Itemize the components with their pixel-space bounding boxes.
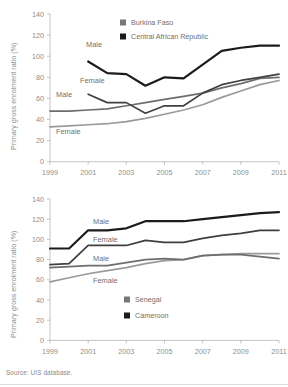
x-tick-label: 1999 <box>42 347 58 356</box>
top-y-axis-title: Primary gross enrolment ratio (%) <box>9 43 18 150</box>
bottom-y-axis-title: Primary gross enrolment ratio (%) <box>9 231 18 338</box>
inline-label-car-female: Female <box>80 76 105 85</box>
x-tick-label: 2001 <box>80 347 96 356</box>
top-series-group <box>50 46 279 127</box>
y-tick-marks <box>47 199 50 340</box>
x-tick-label: 2003 <box>118 168 134 177</box>
legend-swatch-burkina-faso <box>120 20 126 26</box>
inline-label-cameroon-male: Male <box>93 217 109 226</box>
top-chart-svg: Primary gross enrolment ratio (%) 140 12… <box>0 0 288 188</box>
inline-label-burkina-female: Female <box>56 127 81 136</box>
y-tick-label: 20 <box>36 316 44 325</box>
inline-label-senegal-male: Male <box>93 254 109 263</box>
legend-swatch-cameroon <box>124 313 130 319</box>
y-tick-label: 40 <box>36 115 44 124</box>
series-line-burkina-faso-female <box>50 80 279 126</box>
top-legend: Burkina Faso Central African Republic <box>120 18 209 41</box>
x-tick-label: 2007 <box>195 168 211 177</box>
x-tick-label: 2011 <box>271 347 286 356</box>
y-tick-label: 0 <box>40 336 44 345</box>
y-tick-label: 140 <box>32 195 44 204</box>
bottom-chart-svg: Primary gross enrolment ratio (%) 140 12… <box>0 188 288 369</box>
x-tick-label: 2003 <box>118 347 134 356</box>
legend-label-cameroon: Cameroon <box>135 311 169 320</box>
legend-label-burkina-faso: Burkina Faso <box>131 18 173 27</box>
x-tick-label: 2011 <box>271 168 286 177</box>
legend-swatch-central-african-republic <box>120 34 126 40</box>
bottom-legend: Senegal Cameroon <box>124 295 169 320</box>
inline-label-senegal-female: Female <box>93 276 118 285</box>
inline-label-car-male: Male <box>86 40 102 49</box>
figure-root: Primary gross enrolment ratio (%) 140 12… <box>0 0 288 387</box>
legend-swatch-senegal <box>124 297 130 303</box>
legend-label-central-african-republic: Central African Republic <box>131 32 209 41</box>
bottom-x-axis: 1999 2001 2003 2005 2007 2009 2011 <box>42 340 287 355</box>
y-tick-label: 20 <box>36 136 44 145</box>
y-tick-label: 80 <box>36 255 44 264</box>
x-tick-label: 2009 <box>233 168 249 177</box>
y-tick-marks <box>47 14 50 162</box>
y-tick-label: 100 <box>32 52 44 61</box>
x-tick-label: 2001 <box>80 168 96 177</box>
x-tick-label: 2009 <box>233 347 249 356</box>
y-tick-label: 60 <box>36 94 44 103</box>
y-tick-label: 140 <box>32 10 44 19</box>
y-tick-label: 60 <box>36 275 44 284</box>
x-tick-label: 2005 <box>157 347 173 356</box>
y-tick-label: 40 <box>36 296 44 305</box>
bottom-y-axis: 140 120 100 80 60 40 20 0 <box>32 195 50 345</box>
x-tick-label: 1999 <box>42 168 58 177</box>
y-tick-label: 80 <box>36 73 44 82</box>
bottom-divider <box>0 384 288 385</box>
x-tick-label: 2007 <box>195 347 211 356</box>
x-tick-label: 2005 <box>157 168 173 177</box>
x-tick-marks <box>50 162 279 165</box>
x-tick-marks <box>50 340 279 343</box>
chart-panel-bottom: Primary gross enrolment ratio (%) 140 12… <box>0 188 288 360</box>
y-tick-label: 100 <box>32 235 44 244</box>
top-x-axis: 1999 2001 2003 2005 2007 2009 2011 <box>42 162 287 177</box>
top-y-axis: 140 120 100 80 60 40 20 0 <box>32 10 50 167</box>
legend-label-senegal: Senegal <box>135 295 162 304</box>
y-tick-label: 120 <box>32 31 44 40</box>
y-tick-label: 120 <box>32 215 44 224</box>
y-tick-label: 0 <box>40 157 44 166</box>
chart-panel-top: Primary gross enrolment ratio (%) 140 12… <box>0 0 288 188</box>
inline-label-burkina-male: Male <box>56 90 72 99</box>
bottom-series-group <box>50 212 279 282</box>
source-note: Source: UIS database. <box>6 369 72 376</box>
inline-label-cameroon-female: Female <box>93 235 118 244</box>
